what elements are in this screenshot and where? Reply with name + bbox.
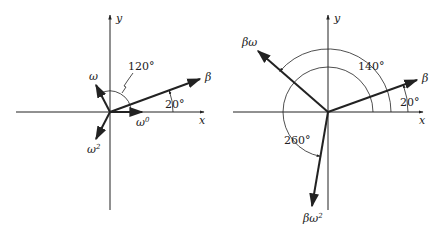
right-angle-260-label: 260° — [284, 134, 311, 147]
left-y-axis-label: y — [115, 12, 123, 25]
right-diagram: x y β βω βω2 140° 260° 20° — [233, 12, 428, 225]
left-diagram: x y β ω ω2 ω0 120° 20° — [16, 12, 211, 210]
right-x-axis-label: x — [419, 114, 426, 127]
left-omega-squared-label: ω2 — [87, 143, 101, 156]
right-y-axis-label: y — [333, 12, 341, 25]
right-beta-omega-vector — [258, 51, 328, 112]
left-omega-vector — [96, 85, 110, 112]
left-beta-label: β — [204, 71, 211, 84]
left-omega-squared-vector — [96, 112, 110, 139]
left-120-leader — [122, 73, 133, 93]
phasor-diagrams: x y β ω ω2 ω0 120° 20° x y β βω — [0, 0, 440, 235]
left-angle-120-label: 120° — [128, 60, 155, 73]
left-angle-20-label: 20° — [165, 98, 185, 111]
right-angle-20-label: 20° — [400, 96, 420, 109]
right-beta-label: β — [421, 72, 428, 85]
left-x-axis-label: x — [199, 114, 206, 127]
right-angle-140-label: 140° — [358, 60, 385, 73]
left-omega-zero-label: ω0 — [136, 116, 150, 129]
right-beta-omega-label: βω — [241, 36, 257, 49]
right-beta-omega-squared-vector — [312, 112, 328, 206]
right-beta-omega-squared-label: βω2 — [302, 212, 323, 225]
left-omega-label: ω — [89, 70, 98, 83]
